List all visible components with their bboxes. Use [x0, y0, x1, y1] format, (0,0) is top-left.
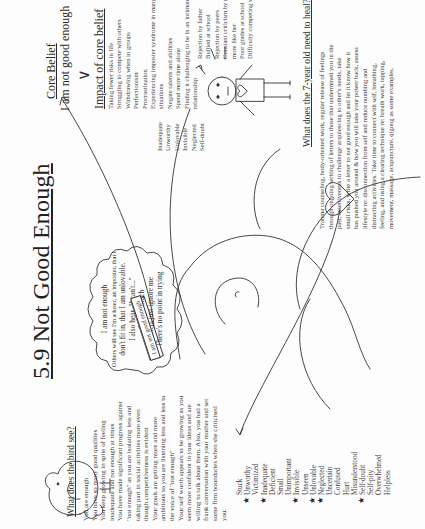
star-icon: ★ — [358, 497, 366, 504]
down-arrow-icon: ∨ — [74, 69, 93, 81]
feeling-item: Hurt — [343, 452, 351, 495]
feeling-label: Small — [277, 478, 285, 495]
impact-item: Negate talents and abilities — [166, 0, 174, 109]
feeling-label: Unlovable — [310, 465, 318, 495]
feeling-item: Helpless — [384, 452, 392, 495]
star-icon: ★ — [292, 497, 300, 504]
bird-line: inadequate and not enough at times — [108, 371, 117, 521]
bird-line: ambitious so you are listening less and … — [159, 371, 168, 521]
feeling-label: Self-pity — [367, 470, 375, 495]
thought-line: Others will see I'm a loser, an imposter… — [109, 249, 118, 369]
feeling-label: Victimized — [252, 463, 260, 495]
child-event: Bullied at school — [204, 0, 212, 59]
child-label: Unlovable — [173, 122, 181, 151]
impact-list: Taking fewer risks in life Struggling to… — [107, 0, 199, 109]
healing-line: distracting activities. Take time to con… — [370, 4, 379, 229]
child-event: Rejection by father — [196, 0, 204, 59]
feeling-label: Hurt — [343, 482, 351, 495]
feeling-item: Confused — [334, 452, 342, 495]
impact-item: situations — [157, 0, 165, 109]
feeling-label: Neglected — [318, 466, 326, 495]
feeling-label: Uncertain — [326, 467, 334, 495]
feeling-label: Unimportant — [285, 458, 293, 495]
impact-item: Spend more time alone — [174, 0, 182, 109]
bird-line: frank conversation with your mother and … — [202, 371, 211, 521]
healing-line: has pushed you around & how you will tak… — [352, 4, 361, 229]
page-title: 5.9 Not Good Enough — [28, 163, 55, 379]
child-event: Difficulty competing with others — [246, 0, 254, 59]
star-icon: ★ — [243, 497, 251, 504]
child-label: Invisible — [181, 122, 189, 151]
feeling-label: Self-doubt — [359, 465, 367, 495]
healing-paragraph: Trauma counseling, body-oriented work, r… — [318, 4, 395, 229]
bird-line: though competitiveness is evident — [142, 371, 151, 521]
feeling-item: Uncertain — [326, 452, 334, 495]
bird-line: You are enough — [82, 371, 91, 521]
impact-item: Struggling to compete with others — [115, 0, 123, 109]
bird-line: "not enough" as you are isolating less a… — [125, 371, 134, 521]
core-belief-heading: Core Belief — [44, 43, 59, 99]
impact-item: Experiencing imposter syndrome in many — [149, 0, 157, 109]
healing-heading: What does the 7-year old need to heal? — [302, 0, 312, 147]
document-page: 5.9 Not Good Enough Core Belief I am not… — [0, 0, 425, 529]
feeling-label: Unseen — [302, 473, 310, 495]
healing-line: movement, massage, acupuncture, qigong a… — [387, 4, 396, 229]
healing-line: feeling, and using a clearing technique … — [378, 4, 387, 229]
feeling-item: Overwhelmed — [375, 452, 383, 495]
feeling-item: Unimportant — [285, 452, 293, 495]
child-figure — [208, 65, 290, 115]
feeling-item: ★Unlovable — [310, 452, 318, 495]
feeling-item: ★Neglected — [318, 452, 326, 495]
healing-line: through ongoing writing of letters to th… — [327, 4, 336, 229]
child-event: Rejection by peers — [213, 0, 221, 59]
feeling-label: Deficient — [269, 468, 277, 495]
feeling-item: ★Inadequate — [261, 452, 269, 495]
feeling-item: ★Self-doubt — [359, 452, 367, 495]
person-outline — [175, 235, 370, 369]
bird-line: Your goals are getting more and more — [151, 371, 160, 521]
child-label: Neglected — [190, 122, 198, 151]
child-event: Constant criticism by mother to be — [221, 0, 229, 59]
feeling-item: Unseen — [302, 452, 310, 495]
impact-item: Taking fewer risks in life — [107, 0, 115, 109]
bird-line: You keep growing in spite of feeling — [99, 371, 108, 521]
bird-paragraph: You are enough You have so many good qua… — [82, 371, 228, 521]
feeling-label: Overwhelmed — [375, 454, 383, 495]
bird-heading: What does the bird see? — [66, 426, 76, 517]
child-label: Unworthy — [164, 122, 172, 151]
star-icon: ★ — [260, 497, 268, 504]
impact-item: Perfectionism — [132, 0, 140, 109]
child-right-labels: Rejection by father Bullied at school Re… — [196, 0, 255, 59]
bird-line: willing to talk about them. Also, you ha… — [194, 371, 203, 521]
bird-line: the voice of "not enough" — [168, 371, 177, 521]
feeling-item: ★Unworthy — [244, 452, 252, 495]
thought-line: I am not enough — [100, 249, 109, 369]
feeling-item: Small — [277, 452, 285, 495]
feeling-label: Misunderstood — [351, 452, 359, 495]
impact-heading: Impact of core belief — [92, 9, 107, 109]
feelings-list: Stuck ★Unworthy Victimized ★Inadequate D… — [236, 452, 392, 495]
scanned-page-frame: 5.9 Not Good Enough Core Belief I am not… — [0, 0, 425, 529]
feeling-item: Deficient — [269, 452, 277, 495]
bird-line: you. — [220, 371, 229, 521]
feeling-item: Stuck — [236, 452, 244, 495]
bird-line: Your self worth appears to be growing as… — [177, 371, 186, 521]
healing-line: lifestyle re: disconnection from self an… — [361, 4, 370, 229]
feeling-label: Inadequate — [261, 463, 269, 495]
child-label: Inadequate — [156, 122, 164, 151]
core-belief-statement: I am not good enough — [58, 6, 73, 111]
feeling-item: ★Invisible — [293, 452, 301, 495]
child-event: more like her — [230, 0, 238, 59]
child-event: Poor grades at school — [238, 0, 246, 59]
feeling-label: Unworthy — [244, 466, 252, 495]
thought-line: don't fit in, that I am unlovable. — [118, 249, 127, 369]
healing-line: small risks, write a letter to not good … — [344, 4, 353, 229]
healing-line: past, assertiveness to challenge acquies… — [335, 4, 344, 229]
impact-item: Procrastination — [141, 0, 149, 109]
star-icon: ★ — [317, 497, 325, 504]
healing-line: Trauma counseling, body-oriented work, r… — [318, 4, 327, 229]
bird-line: You have so many good qualities — [91, 371, 100, 521]
bird-line: You have made significant progress again… — [116, 371, 125, 521]
feeling-label: Helpless — [384, 470, 392, 495]
child-left-labels: Inadequate Unworthy Unlovable Invisible … — [156, 122, 206, 151]
